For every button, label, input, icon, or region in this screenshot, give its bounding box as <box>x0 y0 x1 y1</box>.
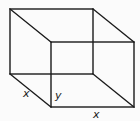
edge-bottom-left <box>10 74 51 107</box>
cuboid-diagram: x y x <box>0 0 140 121</box>
edge-top-left <box>10 9 51 42</box>
depth-label: x <box>22 87 30 100</box>
width-label: x <box>92 108 100 121</box>
edge-bottom-right <box>93 74 134 107</box>
edge-top-right <box>93 9 134 42</box>
height-label: y <box>54 89 62 102</box>
